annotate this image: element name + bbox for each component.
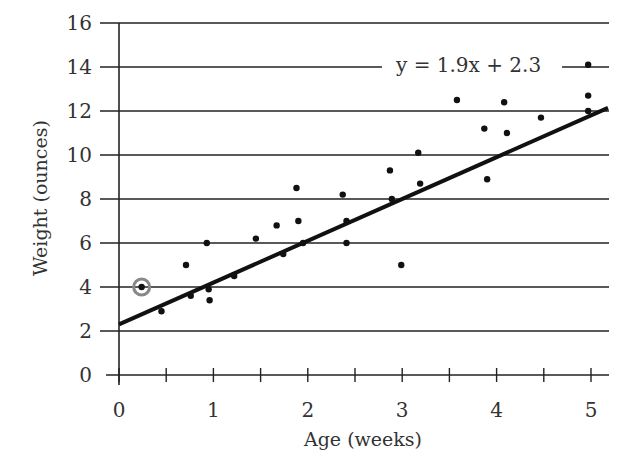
data-point: [231, 273, 237, 279]
y-axis-tick-labels: 0246810121416: [67, 11, 92, 387]
y-tick-label-0: 0: [79, 363, 92, 387]
data-point: [389, 196, 395, 202]
y-tick-label-2: 2: [79, 319, 92, 343]
data-point: [398, 262, 404, 268]
y-tick-label-8: 8: [79, 187, 92, 211]
data-point: [300, 240, 306, 246]
scatter-chart: 0246810121416 012345 y = 1.9x + 2.3 Age …: [0, 0, 621, 466]
data-point: [481, 125, 487, 131]
data-point: [538, 114, 544, 120]
data-point: [415, 150, 421, 156]
y-tick-label-12: 12: [67, 99, 92, 123]
data-point: [504, 130, 510, 136]
data-point: [454, 97, 460, 103]
data-point: [501, 99, 507, 105]
x-tick-label-4: 4: [490, 398, 503, 422]
data-point: [585, 62, 591, 68]
trendline-path: [119, 108, 608, 325]
data-point: [585, 108, 591, 114]
y-axis-title: Weight (ounces): [29, 120, 51, 276]
data-point: [387, 167, 393, 173]
data-point: [343, 240, 349, 246]
y-tick-label-14: 14: [67, 55, 92, 79]
data-point: [585, 92, 591, 98]
data-point: [204, 240, 210, 246]
x-axis-tick-labels: 012345: [113, 398, 598, 422]
data-point: [417, 180, 423, 186]
data-point: [158, 308, 164, 314]
data-point: [138, 284, 144, 290]
y-tick-label-10: 10: [67, 143, 92, 167]
data-point: [484, 176, 490, 182]
y-tick-label-4: 4: [79, 275, 92, 299]
data-point: [295, 218, 301, 224]
data-point: [340, 191, 346, 197]
x-tick-label-3: 3: [396, 398, 409, 422]
data-points: [138, 62, 591, 315]
y-tick-label-6: 6: [79, 231, 92, 255]
data-point: [188, 293, 194, 299]
data-point: [205, 286, 211, 292]
data-point: [206, 297, 212, 303]
x-tick-label-5: 5: [585, 398, 598, 422]
x-tick-label-0: 0: [113, 398, 126, 422]
data-point: [280, 251, 286, 257]
data-point: [293, 185, 299, 191]
data-point: [253, 235, 259, 241]
data-point: [273, 222, 279, 228]
data-point: [343, 218, 349, 224]
y-tick-label-16: 16: [67, 11, 92, 35]
trendline-equation: y = 1.9x + 2.3: [395, 53, 541, 77]
trendline: [119, 108, 608, 325]
x-axis-title: Age (weeks): [303, 428, 422, 450]
data-point: [183, 262, 189, 268]
x-tick-label-1: 1: [207, 398, 220, 422]
x-tick-label-2: 2: [301, 398, 314, 422]
